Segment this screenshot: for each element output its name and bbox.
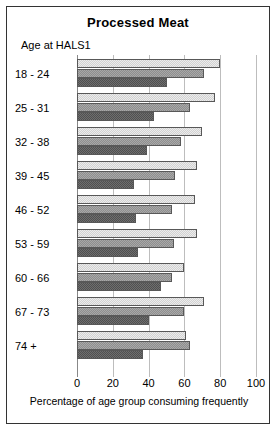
x-tick-label: 20 (107, 377, 119, 389)
x-axis-label: Percentage of age group consuming freque… (7, 395, 271, 407)
bar (77, 239, 174, 248)
chart-frame: Processed Meat Age at HALS1 18 - 2425 - … (6, 6, 270, 424)
category-label: 39 - 45 (15, 170, 49, 182)
bar (77, 103, 190, 112)
bar (77, 137, 181, 146)
bar (77, 69, 204, 78)
bar (77, 316, 149, 325)
category-label: 18 - 24 (15, 68, 49, 80)
x-tick-label: 0 (74, 377, 80, 389)
category-label: 67 - 73 (15, 306, 49, 318)
x-axis: 020406080100 (7, 377, 271, 393)
bar-group: 46 - 52 (7, 195, 271, 225)
bar-group: 32 - 38 (7, 127, 271, 157)
bar (77, 297, 204, 306)
x-tick-label: 100 (247, 377, 265, 389)
bar (77, 307, 184, 316)
x-tick-label: 40 (142, 377, 154, 389)
bar (77, 229, 197, 238)
bar (77, 350, 143, 359)
bar (77, 341, 190, 350)
bar (77, 112, 154, 121)
bar-group: 67 - 73 (7, 297, 271, 327)
bar (77, 93, 215, 102)
bar-group: 53 - 59 (7, 229, 271, 259)
bar (77, 248, 138, 257)
category-label: 25 - 31 (15, 102, 49, 114)
group-axis-title: Age at HALS1 (21, 39, 91, 51)
category-label: 53 - 59 (15, 238, 49, 250)
bar (77, 127, 202, 136)
category-label: 74 + (15, 340, 37, 352)
bar (77, 282, 161, 291)
bar (77, 205, 172, 214)
bar (77, 171, 175, 180)
chart-title: Processed Meat (7, 15, 269, 30)
bar (77, 161, 197, 170)
bar (77, 59, 220, 68)
bar (77, 146, 147, 155)
bar (77, 273, 172, 282)
bar (77, 214, 136, 223)
bar-group: 25 - 31 (7, 93, 271, 123)
bar-group: 74 + (7, 331, 271, 361)
bar (77, 263, 184, 272)
bar-group: 39 - 45 (7, 161, 271, 191)
bar-group: 18 - 24 (7, 59, 271, 89)
category-label: 46 - 52 (15, 204, 49, 216)
bar-group: 60 - 66 (7, 263, 271, 293)
bar (77, 331, 186, 340)
category-label: 32 - 38 (15, 136, 49, 148)
plot-area: 18 - 2425 - 3132 - 3839 - 4546 - 5253 - … (7, 55, 271, 377)
bar (77, 195, 195, 204)
category-label: 60 - 66 (15, 272, 49, 284)
x-tick-label: 80 (214, 377, 226, 389)
x-tick-label: 60 (178, 377, 190, 389)
bar (77, 78, 167, 87)
bar (77, 180, 134, 189)
